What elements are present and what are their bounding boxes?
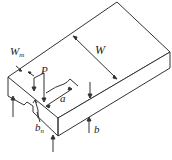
label-load: P xyxy=(41,65,48,76)
label-notch-width: Wm xyxy=(10,46,24,59)
label-notch-depth: bn xyxy=(35,122,44,135)
label-thickness: b xyxy=(94,124,100,135)
label-crack-length: a xyxy=(60,93,66,104)
label-width: W xyxy=(95,44,105,56)
specimen-drawing xyxy=(0,0,172,160)
